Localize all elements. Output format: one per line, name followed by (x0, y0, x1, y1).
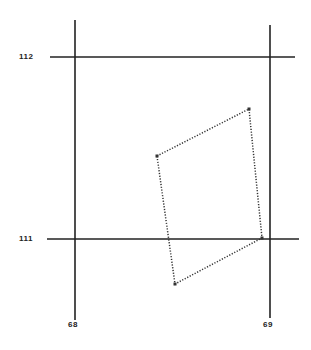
dotted-polygon (157, 109, 262, 284)
vertex-marker (248, 108, 251, 111)
vertex-marker (261, 237, 264, 240)
x-label-68: 68 (68, 320, 78, 329)
y-label-111: 111 (19, 234, 33, 243)
vertex-marker (174, 283, 177, 286)
diagram-canvas (0, 0, 311, 350)
y-label-112: 112 (19, 52, 33, 61)
grid-lines (47, 20, 299, 320)
x-label-69: 69 (263, 320, 273, 329)
vertex-marker (156, 155, 159, 158)
